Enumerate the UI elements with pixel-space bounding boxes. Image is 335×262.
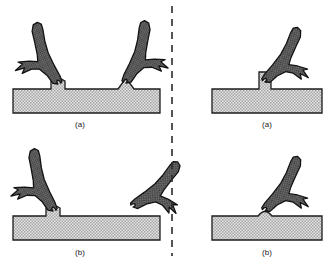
diagram-svg: (a) (b) (a) (b) xyxy=(0,0,335,262)
figure-container: (a) (b) (a) (b) xyxy=(0,0,335,262)
caption-right-b: (b) xyxy=(262,248,272,257)
substrate-bar-right-b xyxy=(212,212,322,241)
caption-left-b: (b) xyxy=(75,248,85,257)
caption-right-a: (a) xyxy=(262,120,272,129)
caption-left-a: (a) xyxy=(75,120,85,129)
